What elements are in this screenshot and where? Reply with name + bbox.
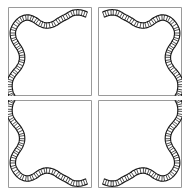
motif-canvas xyxy=(0,0,192,195)
tiled-ribbon-figure xyxy=(0,0,192,195)
